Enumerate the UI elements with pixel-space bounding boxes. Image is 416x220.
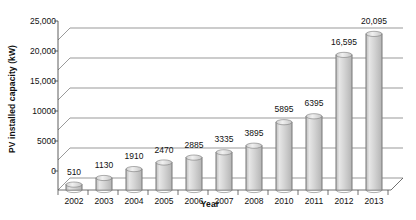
- chart-plot-area: [0, 0, 416, 220]
- bar-cylinder: [336, 52, 352, 192]
- y-axis-line: [54, 21, 58, 190]
- bar-cylinder: [306, 114, 322, 193]
- bar-cylinder: [246, 143, 262, 193]
- bar-cylinder: [216, 150, 232, 193]
- bar-value-label: 16,595: [322, 37, 366, 47]
- bar-value-label: 3895: [234, 128, 274, 138]
- bar-cylinder: [156, 160, 172, 193]
- bar-cylinder: [96, 175, 112, 192]
- bar-cylinder: [126, 167, 142, 193]
- chart-container: PV installed capacity (kW) 25,000 20,000…: [0, 0, 416, 220]
- x-tick-label: 2013: [354, 196, 394, 206]
- bar-cylinder: [276, 120, 292, 193]
- bar-cylinder: [186, 155, 202, 193]
- bar-value-label: 1130: [84, 160, 124, 170]
- bar-value-label: 20,095: [352, 16, 396, 26]
- x-axis-title: Year: [150, 199, 270, 209]
- bar-cylinder: [366, 31, 382, 192]
- bar-cylinder: [66, 182, 82, 193]
- bar-value-label: 6395: [294, 98, 334, 108]
